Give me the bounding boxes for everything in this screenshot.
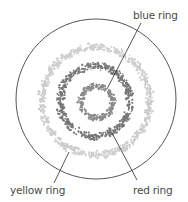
yellow-ring-label: yellow ring xyxy=(10,184,65,196)
blue-ring-label: blue ring xyxy=(133,9,178,21)
concentric-rings-diagram: blue ring red ring yellow ring xyxy=(0,0,188,202)
diagram-canvas: blue ring red ring yellow ring xyxy=(0,0,188,202)
red-ring-label: red ring xyxy=(133,184,173,196)
background xyxy=(0,0,188,202)
